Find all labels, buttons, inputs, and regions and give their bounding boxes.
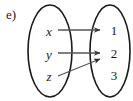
- function-mapping-figure: e) x y z 1 2 3: [0, 0, 133, 101]
- codomain-element-1: 1: [108, 24, 120, 37]
- codomain-element-3: 3: [108, 69, 120, 82]
- arrow-z-to-2: [58, 59, 100, 76]
- domain-element-y: y: [42, 48, 56, 61]
- codomain-element-2: 2: [108, 47, 120, 60]
- domain-element-x: x: [42, 25, 56, 38]
- domain-element-z: z: [42, 70, 56, 83]
